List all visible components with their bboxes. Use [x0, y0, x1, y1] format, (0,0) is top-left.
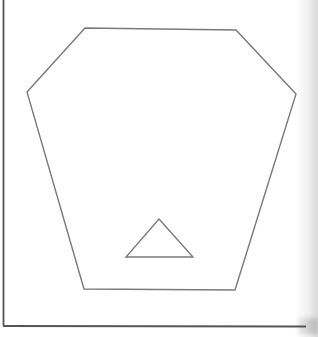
triangle-shape	[126, 219, 193, 257]
frame-bottom-line	[3, 326, 306, 327]
drawing-canvas	[0, 0, 318, 337]
hexagon-shape	[27, 28, 296, 290]
